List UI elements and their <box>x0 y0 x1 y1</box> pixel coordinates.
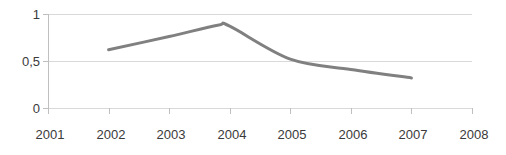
y-tick-label-1: 1 <box>20 8 40 21</box>
x-tick-label-2005: 2005 <box>270 128 314 141</box>
gridlines <box>48 14 472 108</box>
series-line-1 <box>109 23 412 78</box>
x-axis-tick-marks <box>48 108 472 114</box>
x-tick-label-2008: 2008 <box>452 128 496 141</box>
y-axis-tick-marks <box>43 14 48 108</box>
x-tick-label-2006: 2006 <box>331 128 375 141</box>
data-series-1 <box>109 23 412 78</box>
y-tick-label-0: 0 <box>20 102 40 115</box>
line-chart: 1 0,5 0 2001 2002 2003 2004 2005 2006 20… <box>0 0 506 155</box>
x-tick-label-2003: 2003 <box>149 128 193 141</box>
x-tick-label-2004: 2004 <box>210 128 254 141</box>
x-tick-label-2002: 2002 <box>89 128 133 141</box>
x-tick-label-2001: 2001 <box>28 128 72 141</box>
x-tick-label-2007: 2007 <box>391 128 435 141</box>
y-tick-label-0-5: 0,5 <box>12 55 40 68</box>
